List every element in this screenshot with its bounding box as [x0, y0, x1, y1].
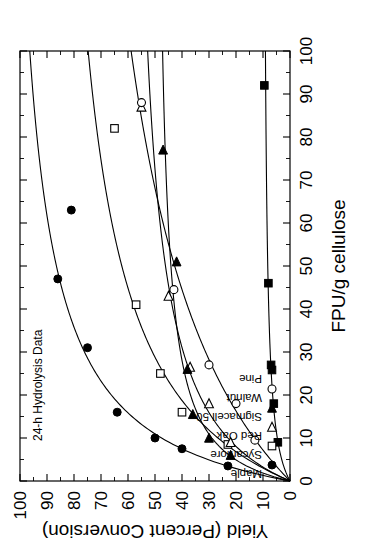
y-tick-label: 60 — [119, 491, 138, 510]
data-point — [111, 125, 119, 133]
hydrolysis-scatter-chart: 0102030405060708090100 01020304050607080… — [0, 0, 367, 551]
x-tick-label: 0 — [297, 476, 316, 485]
data-point — [157, 370, 165, 378]
data-point — [151, 434, 159, 442]
y-axis-title: Yield (Percent Conversion) — [42, 521, 268, 542]
x-tick-label: 70 — [297, 171, 316, 190]
x-tick-label: 80 — [297, 128, 316, 147]
data-point — [265, 279, 273, 287]
data-point — [178, 445, 186, 453]
y-tick-label: 80 — [65, 491, 84, 510]
legend-label-sycamore: Sycamore — [210, 449, 262, 461]
data-point — [67, 206, 75, 214]
x-tick-label: 40 — [297, 300, 316, 319]
rotated-figure-container: 0102030405060708090100 01020304050607080… — [0, 0, 367, 551]
data-point — [113, 408, 121, 416]
legend-label-red-oak: Red Oak — [216, 430, 262, 442]
chart-annotation: 24-h Hydrolysis Data — [31, 329, 45, 441]
data-point — [138, 99, 146, 107]
x-tick-label: 100 — [297, 37, 316, 65]
chart-page: 0102030405060708090100 01020304050607080… — [0, 0, 367, 551]
y-tick-label: 0 — [281, 491, 300, 500]
data-point — [84, 344, 92, 352]
y-tick-label: 40 — [173, 491, 192, 510]
x-tick-label: 20 — [297, 386, 316, 405]
x-tick-label: 30 — [297, 343, 316, 362]
x-tick-label: 10 — [297, 429, 316, 448]
legend-label-pine: Pine — [239, 373, 262, 385]
data-point — [178, 408, 186, 416]
x-tick-label: 90 — [297, 85, 316, 104]
legend-marker-walnut — [268, 385, 276, 393]
legend-marker-maple — [268, 461, 276, 469]
y-tick-label: 50 — [146, 491, 165, 510]
y-tick-label: 100 — [11, 491, 30, 519]
y-tick-label: 20 — [227, 491, 246, 510]
data-point — [132, 301, 140, 309]
x-tick-label: 60 — [297, 214, 316, 233]
data-point — [261, 82, 269, 90]
legend-marker-sycamore — [268, 442, 276, 450]
legend-marker-pine — [268, 366, 276, 374]
y-tick-label: 10 — [254, 491, 273, 510]
y-tick-label: 70 — [92, 491, 111, 510]
data-point — [170, 286, 178, 294]
legend-label-maple: Maple — [231, 468, 262, 480]
legend-label-sigmacell-50: Sigmacell 50 — [196, 411, 262, 423]
data-point — [205, 361, 213, 369]
x-axis-title: FPU/g cellulose — [328, 199, 349, 332]
y-tick-label: 90 — [38, 491, 57, 510]
y-tick-label: 30 — [200, 491, 219, 510]
x-tick-label: 50 — [297, 257, 316, 276]
legend-label-walnut: Walnut — [226, 392, 262, 404]
data-point — [54, 275, 62, 283]
